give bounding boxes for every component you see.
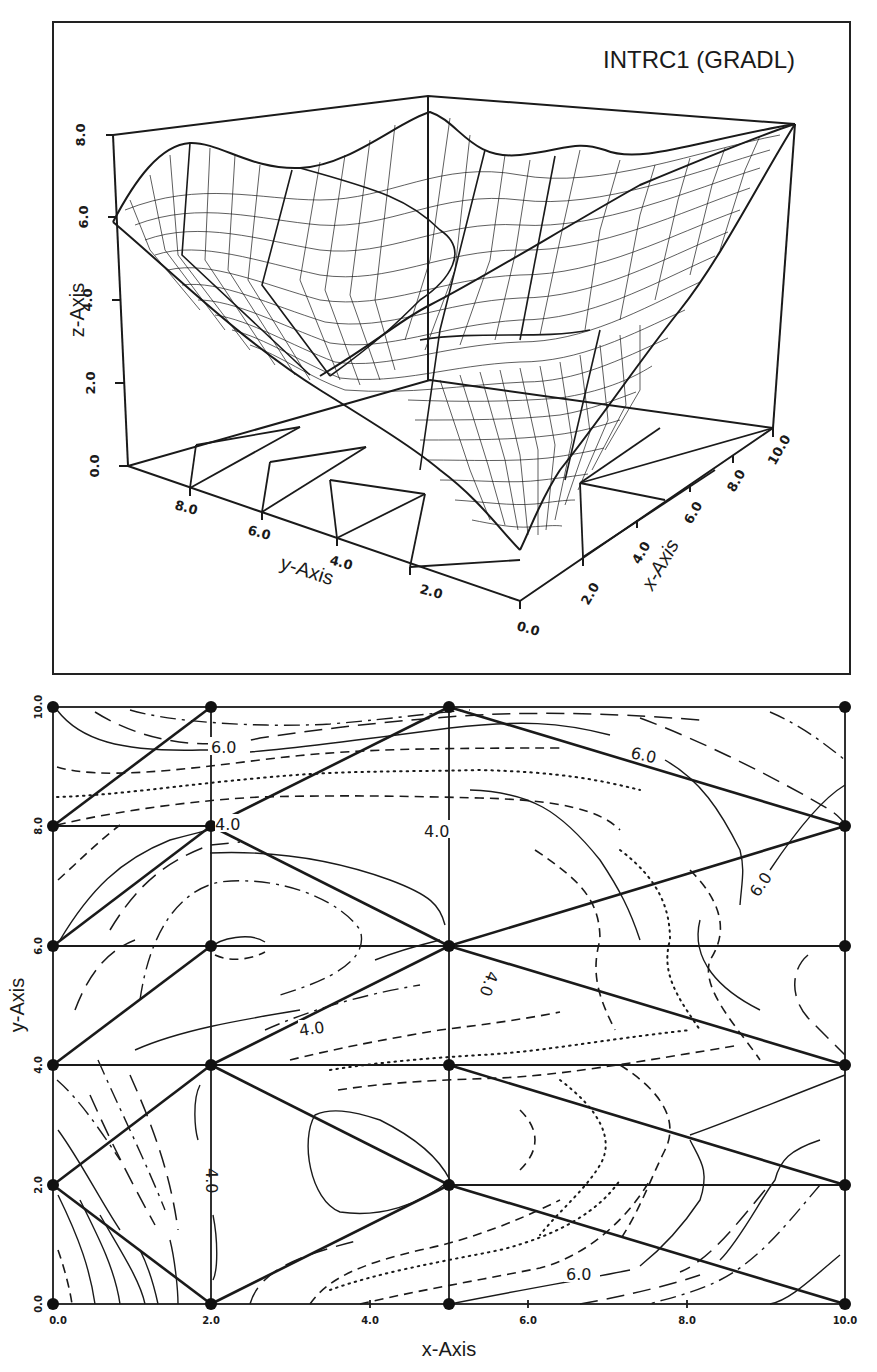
y-tick-8: 8.0 (33, 817, 44, 835)
figure: INTRC1 (GRADL) (0, 0, 877, 1372)
x-tick-0: 0.0 (49, 1315, 67, 1326)
z-axis-label: z-Axis (66, 283, 88, 337)
y-tick-10: 10.0 (33, 695, 44, 720)
contour-labels: 6.0 4.0 4.0 6.0 6.0 4.0 4.0 6.0 4.0 (202, 737, 776, 1284)
contour-label: 4.0 (215, 815, 240, 834)
x-tick-2: 2.0 (202, 1315, 220, 1326)
y-axis-label-3d: y-Axis (278, 551, 337, 589)
contour-label: 4.0 (476, 969, 503, 999)
y-tick-6: 6.0 (33, 937, 44, 955)
contour-label: 6.0 (211, 738, 236, 757)
x3d-tick-10: 10.0 (765, 432, 794, 467)
y-tick-0: 0.0 (33, 1295, 44, 1313)
mesh-lines-u (125, 135, 780, 527)
y3d-tick-8: 8.0 (173, 497, 199, 517)
x-axis-ticks-3d: 2.0 4.0 6.0 8.0 10.0 (578, 432, 794, 607)
y-tick-4: 4.0 (33, 1056, 44, 1074)
x3d-tick-6: 6.0 (681, 499, 706, 526)
z-tick-6: 6.0 (76, 205, 91, 228)
z-tick-0: 0.0 (87, 454, 102, 477)
contour-label: 4.0 (424, 822, 449, 841)
surface-plot: INTRC1 (GRADL) (53, 22, 850, 674)
y3d-tick-0: 0.0 (515, 618, 541, 638)
x3d-tick-8: 8.0 (724, 467, 749, 494)
z-tick-2: 2.0 (83, 371, 98, 394)
mesh-lines-v (130, 118, 760, 535)
y-axis-label: y-Axis (6, 978, 28, 1032)
contour-label: 6.0 (566, 1265, 591, 1284)
x-tick-8: 8.0 (678, 1315, 696, 1326)
y3d-tick-6: 6.0 (246, 522, 272, 542)
contour-y-ticks: 0.0 2.0 4.0 6.0 8.0 10.0 (33, 695, 44, 1313)
x-tick-4: 4.0 (361, 1315, 379, 1326)
x-tick-10: 10.0 (833, 1315, 858, 1326)
x3d-tick-2: 2.0 (578, 580, 603, 607)
contour-lines (57, 710, 848, 1304)
y-tick-2: 2.0 (33, 1176, 44, 1194)
contour-label: 4.0 (298, 1018, 326, 1040)
surface-base-triangulation (128, 380, 773, 609)
contour-frame (53, 707, 845, 1304)
contour-label: 6.0 (746, 869, 776, 901)
y-axis-ticks-3d: 8.0 6.0 4.0 2.0 0.0 (173, 497, 541, 638)
x-axis-label: x-Axis (422, 1338, 476, 1360)
contour-plot: 6.0 4.0 4.0 6.0 6.0 4.0 4.0 6.0 4.0 0.0 … (6, 695, 857, 1360)
z-tick-8: 8.0 (73, 123, 88, 146)
surface-plot-title: INTRC1 (GRADL) (603, 46, 795, 73)
contour-label: 4.0 (202, 1168, 221, 1193)
x-tick-6: 6.0 (519, 1315, 537, 1326)
y3d-tick-2: 2.0 (418, 581, 444, 601)
